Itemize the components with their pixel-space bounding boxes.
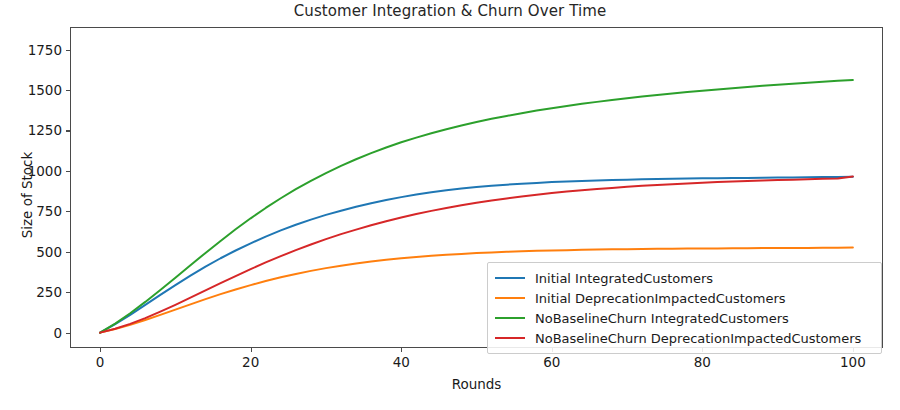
y-tick-label: 1750	[2, 42, 62, 58]
x-tick-label: 0	[70, 354, 130, 370]
y-tick-mark	[66, 130, 70, 131]
y-tick-mark	[66, 292, 70, 293]
y-tick-mark	[66, 50, 70, 51]
y-tick-mark	[66, 333, 70, 334]
chart-figure: Customer Integration & Churn Over Time S…	[0, 0, 900, 410]
legend-item-label: NoBaselineChurn IntegratedCustomers	[535, 311, 789, 326]
legend-color-swatch	[495, 277, 525, 279]
chart-legend: Initial IntegratedCustomersInitial Depre…	[487, 262, 882, 354]
legend-item-label: NoBaselineChurn DeprecationImpactedCusto…	[535, 331, 861, 346]
y-tick-mark	[66, 211, 70, 212]
y-tick-label: 0	[2, 325, 62, 341]
chart-title: Customer Integration & Churn Over Time	[0, 2, 900, 20]
y-tick-label: 750	[2, 203, 62, 219]
legend-color-swatch	[495, 297, 525, 299]
x-tick-label: 20	[221, 354, 281, 370]
y-tick-label: 1000	[2, 163, 62, 179]
legend-item[interactable]: NoBaselineChurn DeprecationImpactedCusto…	[495, 328, 873, 348]
x-tick-mark	[251, 348, 252, 352]
legend-item[interactable]: Initial DeprecationImpactedCustomers	[495, 288, 873, 308]
y-tick-label: 250	[2, 284, 62, 300]
x-tick-label: 100	[823, 354, 883, 370]
legend-item-label: Initial DeprecationImpactedCustomers	[535, 291, 786, 306]
x-tick-label: 40	[371, 354, 431, 370]
y-tick-mark	[66, 171, 70, 172]
legend-item[interactable]: Initial IntegratedCustomers	[495, 268, 873, 288]
x-axis-label: Rounds	[70, 376, 883, 392]
x-tick-mark	[100, 348, 101, 352]
y-tick-label: 1500	[2, 82, 62, 98]
legend-color-swatch	[495, 317, 525, 319]
y-tick-label: 500	[2, 244, 62, 260]
y-tick-mark	[66, 90, 70, 91]
y-tick-mark	[66, 252, 70, 253]
x-tick-label: 80	[672, 354, 732, 370]
x-tick-mark	[401, 348, 402, 352]
x-tick-label: 60	[522, 354, 582, 370]
y-tick-label: 1250	[2, 122, 62, 138]
legend-color-swatch	[495, 337, 525, 339]
legend-item[interactable]: NoBaselineChurn IntegratedCustomers	[495, 308, 873, 328]
legend-item-label: Initial IntegratedCustomers	[535, 271, 713, 286]
